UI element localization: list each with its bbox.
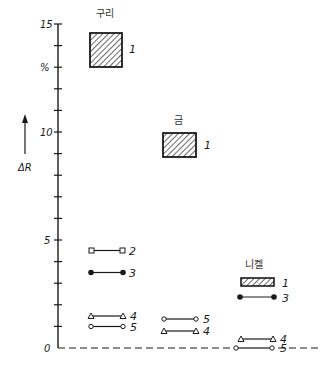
y-axis: 15 % 10 5 0 ΔR <box>17 19 62 354</box>
filled-circle-marker-icon <box>88 270 94 276</box>
open-circle-marker-icon <box>121 324 125 328</box>
group-label-nickel: 니켈 <box>245 259 263 270</box>
nickel-series-1-box <box>241 278 274 286</box>
resistance-change-chart: 15 % 10 5 0 ΔR 구리 1 2 3 <box>0 0 329 376</box>
filled-circle-marker-icon <box>120 270 126 276</box>
y-tick-10: 10 <box>40 127 53 138</box>
open-circle-marker-icon <box>162 317 166 321</box>
open-square-marker-icon <box>120 248 125 253</box>
group-label-copper: 구리 <box>96 8 114 19</box>
copper-series-1-box <box>90 33 122 67</box>
y-axis-arrow-icon <box>22 114 28 154</box>
filled-circle-marker-icon <box>237 294 243 300</box>
open-square-marker-icon <box>89 248 94 253</box>
open-circle-marker-icon <box>234 346 238 350</box>
gold-series-5-line <box>162 317 198 321</box>
gold-series-4-line <box>161 328 199 334</box>
open-circle-marker-icon <box>194 317 198 321</box>
copper-series-3-line <box>88 270 126 276</box>
y-unit-label: % <box>40 62 50 73</box>
nickel-series-4-line <box>238 336 276 342</box>
copper-series-2-label: 2 <box>129 245 136 258</box>
copper-series-1-label: 1 <box>129 43 136 56</box>
group-label-gold: 금 <box>174 115 183 126</box>
nickel-series-5-line <box>233 344 277 352</box>
copper-series-3-label: 3 <box>129 267 136 280</box>
y-axis-title: ΔR <box>17 162 32 173</box>
copper-series-5-label: 5 <box>130 321 137 334</box>
y-tick-5: 5 <box>44 235 50 246</box>
y-tick-0: 0 <box>44 343 50 354</box>
copper-series-4-line <box>88 313 126 319</box>
group-nickel: 니켈 1 3 4 5 <box>233 259 289 355</box>
filled-circle-marker-icon <box>271 294 277 300</box>
chart-container: 15 % 10 5 0 ΔR 구리 1 2 3 <box>0 0 329 376</box>
group-gold: 금 1 5 4 <box>161 115 211 338</box>
nickel-series-3-label: 3 <box>282 292 289 305</box>
open-circle-marker-icon <box>270 346 274 350</box>
open-circle-marker-icon <box>89 324 93 328</box>
nickel-series-5-label: 5 <box>280 342 287 355</box>
gold-series-1-label: 1 <box>204 139 211 152</box>
group-copper: 구리 1 2 3 4 5 <box>88 8 137 334</box>
y-tick-15: 15 <box>40 19 53 30</box>
gold-series-4-label: 4 <box>203 325 210 338</box>
gold-series-1-box <box>163 133 196 157</box>
copper-series-5-line <box>89 324 125 328</box>
nickel-series-1-label: 1 <box>282 277 289 290</box>
nickel-series-3-line <box>237 294 277 300</box>
copper-series-2-line <box>89 248 125 253</box>
